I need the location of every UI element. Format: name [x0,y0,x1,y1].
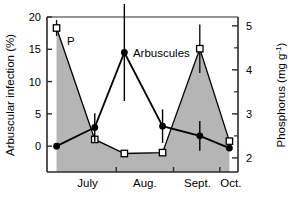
x-category-label: Sept. [184,177,211,189]
right-axis-tick-labels: 2345 [246,20,252,164]
phosphorus-point [226,138,232,144]
right-axis-title: Phosphorus (mg g-1) [274,42,288,147]
figure-panel: 05101520 2345 JulyAug.Sept.Oct. P Arbusc… [0,0,297,211]
right-tick-label: 3 [246,108,252,120]
phosphorus-point [121,150,127,156]
arbuscular-infection-phosphorus-chart: 05101520 2345 JulyAug.Sept.Oct. P Arbusc… [0,0,297,211]
left-tick-label: 5 [35,108,41,120]
right-tick-label: 5 [246,20,252,32]
phosphorus-series-label: P [67,35,75,47]
arbuscules-point [91,124,98,131]
phosphorus-point [53,25,59,31]
x-category-label: Aug. [133,177,157,189]
phosphorus-point [159,149,165,155]
left-tick-label: 10 [29,76,41,88]
left-tick-label: 20 [29,11,41,23]
left-axis-tick-labels: 05101520 [29,11,41,152]
arbuscules-series-label: Arbuscules [133,47,190,59]
arbuscules-point [121,49,128,56]
left-axis-title: Arbuscular infection (%) [4,34,16,156]
arbuscules-point [226,145,233,152]
x-category-label: Oct. [220,177,241,189]
right-tick-label: 4 [246,64,252,76]
right-tick-label: 2 [246,152,252,164]
left-tick-label: 0 [35,140,41,152]
x-axis-category-labels: JulyAug.Sept.Oct. [77,177,241,189]
arbuscules-point [196,132,203,139]
x-category-label: July [77,177,98,189]
arbuscules-point [53,143,60,150]
arbuscules-point [159,123,166,130]
left-tick-label: 15 [29,43,41,55]
phosphorus-point [197,46,203,52]
